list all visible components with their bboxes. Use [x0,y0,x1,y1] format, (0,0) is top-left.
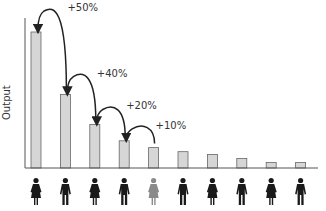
woman-icon [266,178,277,205]
woman-icon [89,178,100,205]
woman-icon [148,178,159,205]
bar-5 [149,148,159,168]
annotation-label-1: +50% [67,2,98,13]
bar-6 [178,152,188,168]
arrow-3 [97,107,125,137]
arrow-2 [67,74,95,120]
bar-3 [90,124,100,168]
man-icon [295,178,306,205]
man-icon [60,178,71,205]
annotation-label-4: +10% [156,120,187,131]
bar-9 [266,163,276,168]
bar-4 [119,141,129,168]
annotation-label-2: +40% [97,68,128,79]
bar-1 [31,32,41,168]
arrow-4 [126,126,154,143]
woman-icon [207,178,218,205]
y-axis-label: Output [1,85,12,120]
arrow-1 [38,9,66,90]
bar-8 [237,158,247,168]
bar-chart: +50%+40%+20%+10% [0,0,326,211]
bar-10 [296,163,306,168]
man-icon [178,178,189,205]
bar-2 [60,95,70,168]
annotation-label-3: +20% [126,100,157,111]
y-axis-label-wrap: Output [0,80,14,120]
woman-icon [31,178,42,205]
man-icon [119,178,130,205]
bar-7 [207,154,217,168]
man-icon [236,178,247,205]
